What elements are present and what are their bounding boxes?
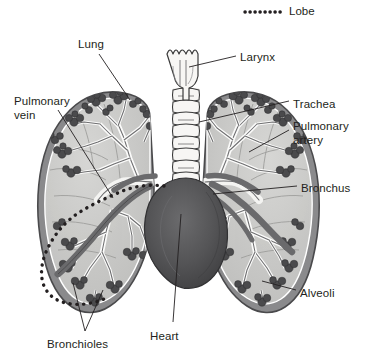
label-heart: Heart: [150, 330, 179, 344]
respiratory-system-diagram: Lobe Lung Larynx Pulmonary vein Trachea …: [0, 0, 373, 352]
label-lung: Lung: [78, 38, 104, 52]
label-bronchus: Bronchus: [301, 182, 350, 196]
heart: [145, 178, 228, 288]
label-bronchioles: Bronchioles: [47, 338, 108, 352]
legend-label-lobe: Lobe: [289, 5, 315, 17]
label-alveoli: Alveoli: [300, 287, 335, 301]
label-larynx: Larynx: [240, 51, 275, 65]
label-trachea: Trachea: [293, 98, 335, 112]
label-pulmonary-vein: Pulmonary vein: [14, 95, 70, 122]
trachea: [173, 88, 200, 190]
label-pulmonary-artery: Pulmonary artery: [293, 120, 349, 147]
